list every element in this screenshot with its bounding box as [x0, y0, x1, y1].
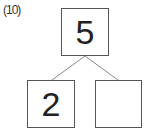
- part-right-box-blank[interactable]: [95, 80, 142, 128]
- whole-box: 5: [61, 8, 109, 56]
- part-left-box: 2: [27, 80, 75, 128]
